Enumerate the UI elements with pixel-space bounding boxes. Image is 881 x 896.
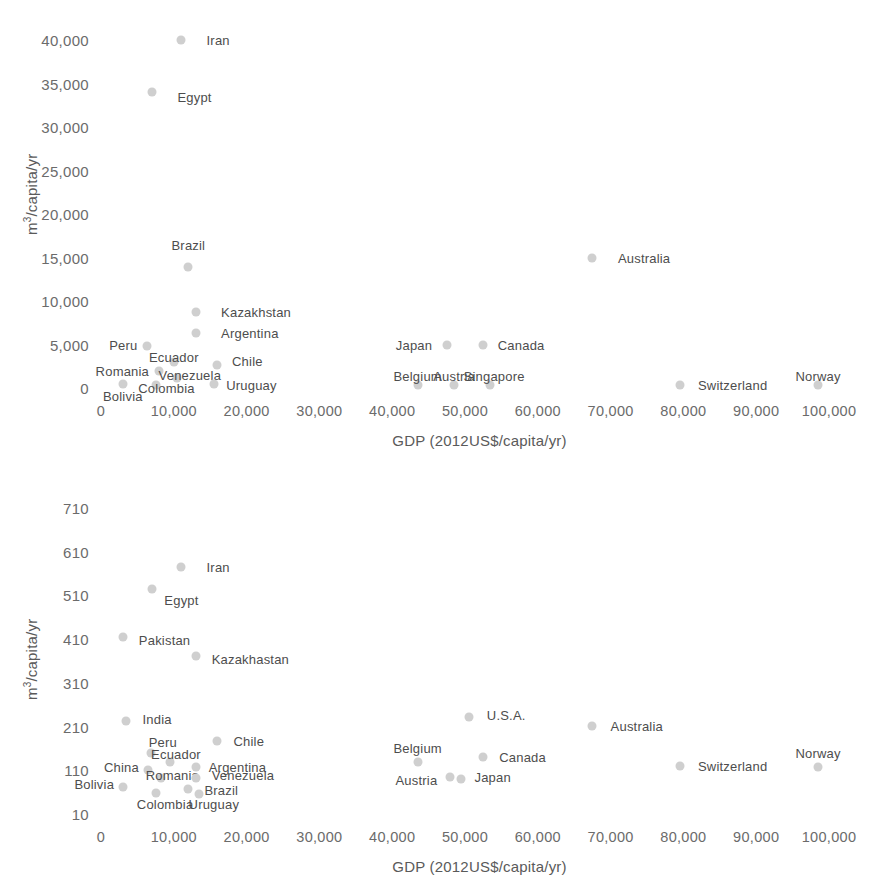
x-axis-tick-label: 60,000: [515, 403, 561, 419]
y-axis-tick-label: 210: [63, 718, 89, 735]
scatter-chart-top: 05,00010,00015,00020,00025,00030,00035,0…: [0, 0, 881, 450]
y-axis-tick-label: 510: [63, 587, 89, 604]
data-point-marker: [122, 717, 131, 726]
data-point-label: Colombia: [137, 797, 194, 812]
y-axis-tick-label: 20,000: [41, 206, 89, 223]
data-point-label: Uruguay: [226, 378, 277, 393]
data-point-label: Kazakhastan: [212, 651, 289, 666]
data-point-marker: [191, 774, 200, 783]
data-point-marker: [184, 263, 193, 272]
data-point-label: Uruguay: [189, 797, 240, 812]
y-axis-tick-label: 610: [63, 543, 89, 560]
y-axis-tick-label: 710: [63, 500, 89, 517]
data-point-label: India: [142, 711, 171, 726]
data-point-label: Singapore: [464, 368, 525, 383]
y-axis-tick-label: 10: [72, 806, 89, 823]
data-point-label: Japan: [396, 337, 432, 352]
x-axis-tick-label: 10,000: [151, 829, 197, 845]
y-axis-title: m3/capita/yr: [22, 154, 40, 235]
data-point-marker: [191, 651, 200, 660]
data-point-label: Belgium: [393, 741, 441, 756]
data-point-label: Chile: [233, 733, 264, 748]
data-point-label: Iran: [207, 33, 230, 48]
x-axis-tick-label: 50,000: [442, 829, 488, 845]
x-axis-tick-label: 70,000: [588, 829, 634, 845]
data-point-label: Argentina: [221, 326, 278, 341]
data-point-label: Ecuador: [149, 349, 199, 364]
plot-area-top: 05,00010,00015,00020,00025,00030,00035,0…: [0, 0, 881, 450]
data-point-label: China: [104, 759, 139, 774]
x-axis-tick-label: 100,000: [802, 403, 857, 419]
x-axis-tick-label: 30,000: [296, 403, 342, 419]
data-point-marker: [588, 721, 597, 730]
data-point-marker: [675, 761, 684, 770]
data-point-marker: [446, 772, 455, 781]
x-axis-title: GDP (2012US$/capita/yr): [392, 432, 566, 449]
y-axis-tick-label: 0: [80, 380, 89, 397]
data-point-label: Norway: [795, 745, 840, 760]
x-axis-tick-label: 30,000: [296, 829, 342, 845]
x-axis-tick-label: 20,000: [224, 829, 270, 845]
y-axis-title: m3/capita/yr: [22, 619, 40, 700]
x-axis-tick-label: 0: [97, 403, 105, 419]
x-axis-tick-label: 40,000: [369, 403, 415, 419]
data-point-marker: [479, 753, 488, 762]
data-point-marker: [464, 712, 473, 721]
data-point-marker: [177, 563, 186, 572]
x-axis-tick-label: 90,000: [733, 829, 779, 845]
y-axis-tick-label: 5,000: [50, 336, 89, 353]
plot-area-bottom: 10110210310410510610710010,00020,00030,0…: [0, 450, 881, 896]
data-point-label: Switzerland: [698, 758, 767, 773]
x-axis-tick-label: 50,000: [442, 403, 488, 419]
x-axis-title: GDP (2012US$/capita/yr): [392, 858, 566, 875]
data-point-marker: [413, 757, 422, 766]
data-point-label: Iran: [207, 560, 230, 575]
x-axis-tick-label: 90,000: [733, 403, 779, 419]
data-point-marker: [118, 379, 127, 388]
data-point-label: Pakistan: [139, 633, 190, 648]
y-axis-tick-label: 10,000: [41, 293, 89, 310]
data-point-marker: [457, 775, 466, 784]
data-point-marker: [442, 340, 451, 349]
y-axis-tick-label: 35,000: [41, 75, 89, 92]
x-axis-tick-label: 100,000: [802, 829, 857, 845]
y-axis-tick-label: 15,000: [41, 249, 89, 266]
data-point-label: Canada: [498, 337, 545, 352]
data-point-label: Australia: [611, 718, 663, 733]
data-point-marker: [118, 632, 127, 641]
data-point-marker: [184, 784, 193, 793]
data-point-label: Kazakhstan: [221, 305, 291, 320]
data-point-label: Romania: [96, 363, 149, 378]
data-point-label: Austria: [395, 772, 437, 787]
data-point-label: Brazil: [172, 238, 206, 253]
y-axis-tick-label: 25,000: [41, 162, 89, 179]
data-point-label: Brazil: [204, 782, 238, 797]
data-point-label: Egypt: [177, 90, 211, 105]
data-point-marker: [209, 379, 218, 388]
data-point-label: Egypt: [164, 592, 198, 607]
data-point-marker: [675, 381, 684, 390]
data-point-label: Switzerland: [698, 378, 767, 393]
data-point-label: Chile: [232, 354, 263, 369]
x-axis-tick-label: 20,000: [224, 403, 270, 419]
x-axis-tick-label: 80,000: [660, 829, 706, 845]
data-point-marker: [479, 340, 488, 349]
data-point-marker: [588, 253, 597, 262]
data-point-marker: [191, 308, 200, 317]
data-point-label: Canada: [499, 750, 546, 765]
data-point-label: Venezuela: [212, 767, 275, 782]
data-point-label: Norway: [795, 368, 840, 383]
data-point-label: Colombia: [138, 381, 195, 396]
x-axis-tick-label: 0: [97, 829, 105, 845]
data-point-label: U.S.A.: [487, 707, 526, 722]
y-axis-tick-label: 30,000: [41, 119, 89, 136]
data-point-marker: [118, 782, 127, 791]
data-point-marker: [147, 584, 156, 593]
y-axis-tick-label: 310: [63, 674, 89, 691]
data-point-marker: [177, 36, 186, 45]
data-point-label: Australia: [618, 250, 670, 265]
data-point-marker: [147, 88, 156, 97]
data-point-label: Japan: [474, 769, 510, 784]
x-axis-tick-label: 70,000: [588, 403, 634, 419]
y-axis-tick-label: 40,000: [41, 32, 89, 49]
